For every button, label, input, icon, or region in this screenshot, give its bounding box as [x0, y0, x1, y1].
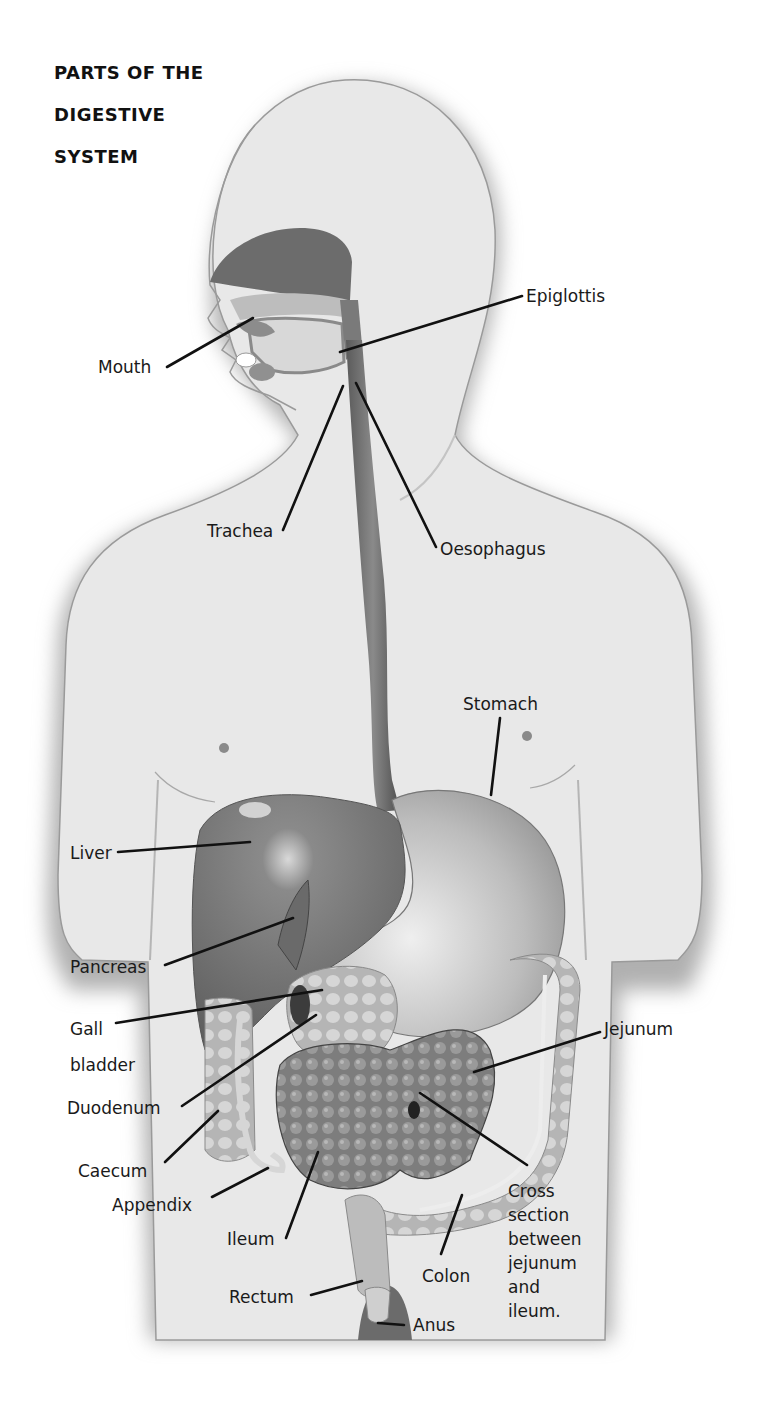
label-duodenum: Duodenum: [67, 1097, 161, 1119]
cross-section-line-4: jejunum: [508, 1251, 582, 1275]
label-epiglottis: Epiglottis: [526, 285, 605, 307]
label-gall-bladder-line-2: bladder: [70, 1047, 135, 1083]
cross-section-line-2: section: [508, 1203, 582, 1227]
label-colon: Colon: [422, 1265, 470, 1287]
label-gall-bladder: Gall bladder: [70, 1011, 135, 1083]
anus-organ: [365, 1287, 390, 1322]
cross-section-line-3: between: [508, 1227, 582, 1251]
label-trachea: Trachea: [207, 520, 273, 542]
label-gall-bladder-line-1: Gall: [70, 1011, 135, 1047]
label-cross-section: Cross section between jejunum and ileum.: [508, 1179, 582, 1323]
title-line-3: SYSTEM: [54, 136, 204, 178]
label-liver: Liver: [70, 842, 112, 864]
label-pancreas: Pancreas: [70, 956, 146, 978]
cross-section-line-6: ileum.: [508, 1299, 582, 1323]
label-jejunum: Jejunum: [604, 1018, 673, 1040]
label-appendix: Appendix: [112, 1194, 192, 1216]
small-intestine: [276, 1030, 494, 1189]
label-rectum: Rectum: [229, 1286, 294, 1308]
label-stomach: Stomach: [463, 693, 538, 715]
label-mouth: Mouth: [98, 356, 151, 378]
label-caecum: Caecum: [78, 1160, 147, 1182]
label-oesophagus: Oesophagus: [440, 538, 546, 560]
title-line-2: DIGESTIVE: [54, 94, 204, 136]
diagram-title: PARTS OF THE DIGESTIVE SYSTEM: [54, 52, 204, 178]
digestive-system-diagram: PARTS OF THE DIGESTIVE SYSTEM Mouth Epig…: [0, 0, 759, 1407]
label-anus: Anus: [413, 1314, 455, 1336]
cross-section-line-1: Cross: [508, 1179, 582, 1203]
label-ileum: Ileum: [227, 1228, 275, 1250]
cross-section-line-5: and: [508, 1275, 582, 1299]
title-line-1: PARTS OF THE: [54, 52, 204, 94]
